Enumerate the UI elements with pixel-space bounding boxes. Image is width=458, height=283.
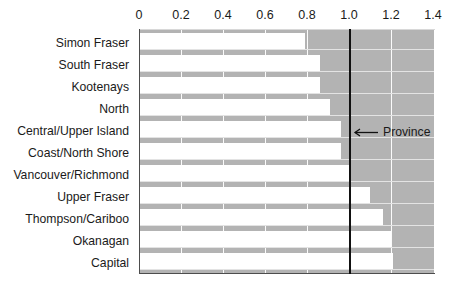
x-tick-1: 0.2 (172, 8, 190, 22)
province-label: Province (383, 126, 430, 138)
row-separator (139, 269, 434, 270)
bar-okanagan (139, 231, 391, 247)
row-separator (139, 225, 434, 226)
plot-top-rule (139, 29, 435, 30)
bar-row (139, 77, 434, 93)
bar-coast-north-shore (139, 143, 341, 159)
row-separator (139, 159, 434, 160)
bar-row (139, 143, 434, 159)
bar-vancouver-richmond (139, 165, 349, 181)
row-separator (139, 71, 434, 72)
bar-row (139, 99, 434, 115)
bar-row (139, 33, 434, 49)
y-label-south-fraser: South Fraser (59, 59, 129, 71)
bar-row (139, 187, 434, 203)
bars-layer (139, 30, 434, 273)
bar-south-fraser (139, 55, 320, 71)
x-tick-2: 0.4 (214, 8, 232, 22)
x-tick-4: 0.8 (298, 8, 316, 22)
y-axis-category-labels: Simon Fraser South Fraser Kootenays Nort… (0, 30, 135, 273)
row-separator (139, 181, 434, 182)
bar-north (139, 99, 330, 115)
bar-row (139, 165, 434, 181)
y-label-central-upper-island: Central/Upper Island (17, 125, 129, 137)
bar-row (139, 209, 434, 225)
bar-row (139, 253, 434, 269)
bar-simon-fraser (139, 33, 305, 49)
row-separator (139, 93, 434, 94)
x-tick-7: 1.4 (424, 8, 442, 22)
y-label-upper-fraser: Upper Fraser (57, 191, 129, 203)
row-separator (139, 203, 434, 204)
y-label-thompson-cariboo: Thompson/Cariboo (25, 213, 129, 225)
province-annotation: Province (353, 126, 430, 138)
x-tick-3: 0.6 (256, 8, 274, 22)
province-reference-line (349, 29, 351, 274)
bar-row (139, 231, 434, 247)
bar-kootenays (139, 77, 320, 93)
x-tick-6: 1.2 (382, 8, 400, 22)
y-label-capital: Capital (91, 257, 129, 269)
y-label-simon-fraser: Simon Fraser (56, 37, 129, 49)
y-label-okanagan: Okanagan (73, 235, 129, 247)
y-label-coast-north-shore: Coast/North Shore (28, 147, 129, 159)
row-separator (139, 247, 434, 248)
x-axis-tick-labels: 0 0.2 0.4 0.6 0.8 1.0 1.2 1.4 (0, 8, 458, 26)
y-label-kootenays: Kootenays (71, 81, 129, 93)
y-axis-line (139, 29, 140, 274)
x-tick-5: 1.0 (340, 8, 358, 22)
bar-capital (139, 253, 393, 269)
bar-row (139, 55, 434, 71)
row-separator (139, 115, 434, 116)
y-label-north: North (99, 103, 129, 115)
x-tick-0: 0 (135, 8, 142, 22)
bar-thompson-cariboo (139, 209, 383, 225)
horizontal-bar-chart: 0 0.2 0.4 0.6 0.8 1.0 1.2 1.4 (0, 0, 458, 283)
row-separator (139, 49, 434, 50)
x-axis-line (139, 273, 435, 274)
arrow-left-icon (353, 128, 379, 137)
y-label-vancouver-richmond: Vancouver/Richmond (13, 169, 129, 181)
bar-central-upper-island (139, 121, 341, 137)
bar-upper-fraser (139, 187, 370, 203)
